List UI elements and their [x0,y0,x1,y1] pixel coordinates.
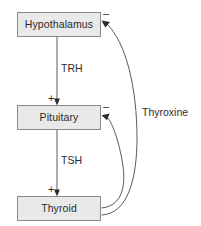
node-hypothalamus-label: Hypothalamus [25,19,93,30]
connector-short-feedback [102,117,124,209]
sign-minus-hypothalamus: – [103,8,109,19]
sign-minus-pituitary: – [103,101,109,112]
edge-label-tsh: TSH [61,155,82,166]
node-hypothalamus[interactable]: Hypothalamus [17,12,101,37]
node-pituitary-label: Pituitary [40,112,79,123]
node-pituitary[interactable]: Pituitary [17,105,101,130]
node-thyroid-label: Thyroid [41,203,77,214]
sign-plus-pituitary: + [48,93,54,104]
sign-plus-thyroid: + [48,184,54,195]
diagram-canvas: Hypothalamus Pituitary Thyroid TRH TSH T… [0,0,201,226]
edge-label-trh: TRH [61,63,83,74]
node-thyroid[interactable]: Thyroid [17,196,101,221]
edge-label-thyroxine: Thyroxine [142,107,188,118]
